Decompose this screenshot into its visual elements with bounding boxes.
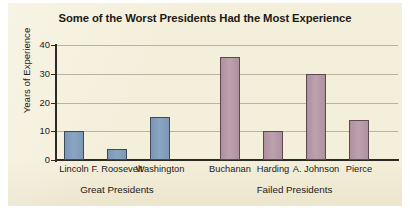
chart-panel: Some of the Worst Presidents Had the Mos… [8,3,402,206]
group-label: Failed Presidents [225,184,365,195]
bar [150,117,170,160]
gridline [56,45,398,46]
y-axis-tick-label: 30 [24,68,50,79]
bar [349,120,369,160]
chart-title: Some of the Worst Presidents Had the Mos… [8,12,402,24]
bar [306,74,326,160]
y-axis-tick-label: 20 [24,97,50,108]
x-axis-tick-label: Pierce [315,164,403,174]
y-axis-tick-labels: 010203040 [18,3,50,215]
y-axis-tick [51,103,56,104]
y-axis-tick [51,131,56,132]
bar [220,57,240,161]
bar [263,131,283,160]
group-label: Great Presidents [47,184,187,195]
chart-figure: Some of the Worst Presidents Had the Mos… [0,0,410,215]
y-axis-tick [51,74,56,75]
y-axis-tick [51,160,56,161]
y-axis-tick-label: 40 [24,39,50,50]
y-axis-tick-label: 10 [24,125,50,136]
bar [64,131,84,160]
y-axis-tick [51,45,56,46]
bar [107,149,127,161]
